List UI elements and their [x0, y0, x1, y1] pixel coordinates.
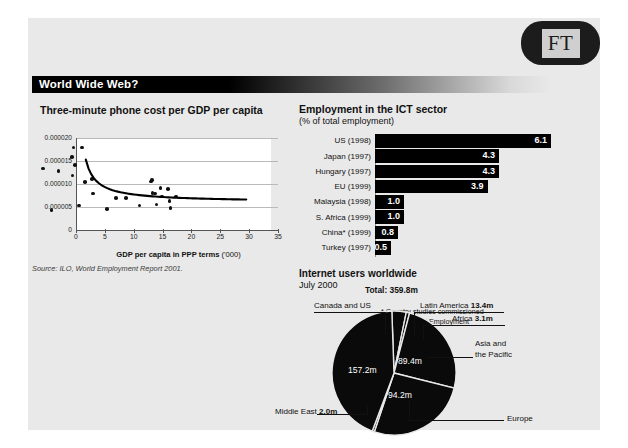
pie-label-africa: Africa 3.1m [452, 314, 493, 323]
bar-row-value: 1.0 [387, 196, 400, 206]
scatter-point [71, 174, 75, 178]
bar-row-value: 4.3 [483, 166, 496, 176]
scatter-point [70, 155, 74, 159]
bar-row-bar: 3.9 [375, 180, 488, 194]
y-tick-label: 0.000010 [32, 180, 72, 187]
pie-chart-date: July 2000 [299, 280, 599, 290]
x-axis-title: GDP per capita in PPP terms ('000) [76, 250, 281, 259]
leader-line-canada-us-v [385, 312, 386, 335]
bar-row-label: EU (1999) [299, 182, 375, 191]
bar-row: EU (1999)3.9 [299, 180, 589, 194]
headline-bar: World Wide Web? [32, 76, 552, 93]
pie-chart: Internet users worldwide July 2000 Total… [299, 268, 599, 438]
pie-label-asia-line2: the Pacific [475, 350, 512, 361]
bar-row-label: Japan (1997) [299, 152, 375, 161]
ft-logo-text: FT [548, 33, 574, 54]
x-tick-label: 35 [271, 233, 285, 240]
x-axis-title-unit: ('000) [222, 250, 241, 259]
bar-chart-subtitle: (% of total employment) [299, 116, 589, 126]
pie-slice-value-europe: 94.2m [388, 390, 412, 400]
scatter-point [41, 167, 45, 171]
bar-row: Turkey (1997)0.5 [299, 241, 589, 255]
leader-line-asia [426, 357, 473, 358]
page-title: World Wide Web? [39, 78, 138, 90]
bar-row-label: Malaysia (1998) [299, 197, 375, 206]
pie-chart-title: Internet users worldwide [299, 268, 599, 279]
bar-row-value: 0.8 [382, 227, 395, 237]
bar-row-bar: 0.5 [375, 241, 391, 255]
bar-chart: Employment in the ICT sector (% of total… [299, 103, 589, 253]
scatter-plot-area: 0.000020 0.000015 0.000010 0.000005 0 0 … [32, 132, 294, 250]
bar-row-label: US (1998) [299, 136, 375, 145]
leader-line-latin-america-h [414, 312, 504, 313]
pie-label-latin-america-name: Latin America [420, 301, 468, 310]
leader-line-canada-us-h [314, 312, 386, 313]
pie-label-middle-east-value: 2.0m [319, 407, 337, 416]
pie-label-latin-america: Latin America 13.4m [420, 301, 493, 310]
pie-slice-value-canada-us: 157.2m [348, 365, 377, 375]
bar-row-value: 3.9 [471, 181, 484, 191]
scatter-chart: Three-minute phone cost per GDP per capi… [32, 104, 294, 282]
infographic-page: FT World Wide Web? Three-minute phone co… [0, 0, 628, 448]
y-tick-label: 0 [32, 226, 72, 233]
bar-row-bar: 1.0 [375, 210, 404, 224]
pie-chart-total: Total: 359.8m [365, 285, 418, 295]
pie-label-canada-us: Canada and US [314, 301, 371, 310]
bar-row-label: Hungary (1997) [299, 167, 375, 176]
bar-row: S. Africa (1999)1.0 [299, 210, 589, 224]
bar-row: Japan (1997)4.3 [299, 149, 589, 163]
bar-rows: US (1998)6.1Japan (1997)4.3Hungary (1997… [299, 134, 589, 256]
leader-line-africa-h [423, 325, 505, 326]
bar-row: US (1998)6.1 [299, 134, 589, 148]
x-tick-label: 20 [184, 233, 198, 240]
scatter-point [72, 146, 76, 150]
y-tick-label: 0.000020 [32, 134, 72, 141]
bar-row-value: 0.5 [374, 242, 387, 252]
x-axis-line [76, 230, 278, 231]
ft-logo: FT [521, 21, 600, 65]
bar-row-bar: 4.3 [375, 165, 499, 179]
pie-label-africa-name: Africa [452, 314, 472, 323]
y-tick-label: 0.000015 [32, 157, 72, 164]
leader-line-europe-h [409, 420, 504, 421]
bar-row-bar: 4.3 [375, 149, 499, 163]
pie-slice-value-asia: 89.4m [398, 356, 422, 366]
bar-chart-title: Employment in the ICT sector [299, 103, 589, 115]
pie-label-middle-east: Middle East 2.0m [275, 407, 337, 416]
bar-row-value: 1.0 [387, 211, 400, 221]
x-tick-label: 25 [213, 233, 227, 240]
bar-row: China* (1999)0.8 [299, 226, 589, 240]
ft-logo-box: FT [542, 29, 580, 58]
x-tick-label: 15 [156, 233, 170, 240]
x-axis-title-main: GDP per capita in PPP terms [116, 250, 219, 259]
bar-row-label: S. Africa (1999) [299, 213, 375, 222]
pie-label-asia: Asia and the Pacific [475, 339, 512, 361]
leader-line-africa-v [423, 325, 424, 340]
pie-label-asia-line1: Asia and [475, 339, 512, 350]
bar-row-value: 6.1 [534, 135, 547, 145]
bar-row: Malaysia (1998)1.0 [299, 195, 589, 209]
pie-label-latin-america-value: 13.4m [471, 301, 494, 310]
pie-label-middle-east-name: Middle East [275, 407, 317, 416]
x-tick-label: 30 [242, 233, 256, 240]
pie-label-africa-value: 3.1m [475, 314, 493, 323]
x-tick-label: 5 [98, 233, 112, 240]
trend-line [76, 138, 278, 230]
leader-line-middle-east-v [367, 406, 368, 415]
x-tick-label: 10 [127, 233, 141, 240]
scatter-chart-title: Three-minute phone cost per GDP per capi… [40, 104, 294, 116]
bar-row-bar: 6.1 [375, 134, 551, 148]
bar-row-value: 4.3 [483, 150, 496, 160]
bar-row: Hungary (1997)4.3 [299, 165, 589, 179]
x-tick-label: 0 [69, 233, 83, 240]
bar-row-label: China* (1999) [299, 228, 375, 237]
pie-label-europe: Europe [507, 414, 533, 423]
bar-row-label: Turkey (1997) [299, 243, 375, 252]
leader-line-latin-america-v [414, 312, 415, 336]
leader-line-europe-v [409, 401, 410, 421]
bar-row-bar: 0.8 [375, 226, 398, 240]
bar-row-bar: 1.0 [375, 195, 404, 209]
source-note: Source: ILO, World Employment Report 200… [32, 264, 183, 273]
scatter-point [57, 169, 61, 173]
scatter-point [50, 208, 54, 212]
